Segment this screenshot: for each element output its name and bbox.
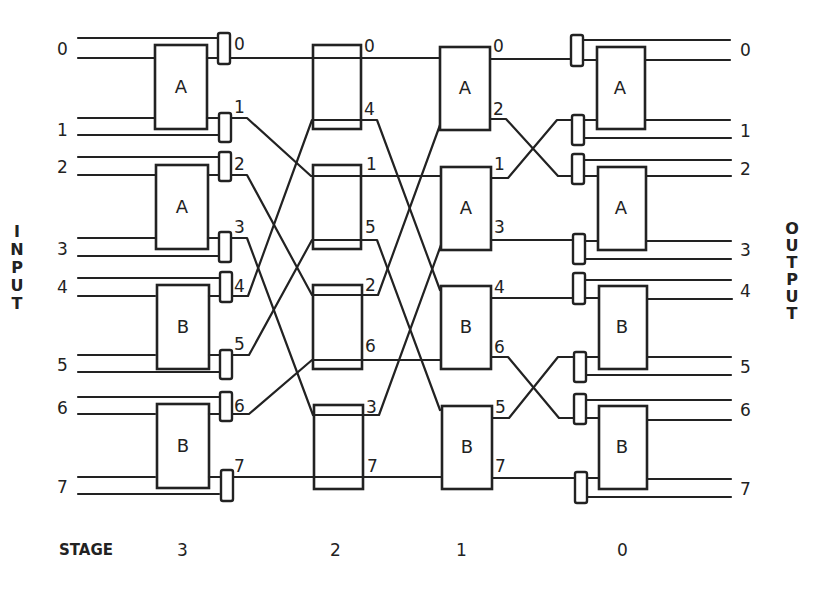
stage1-blocks: A A B B 0 2 1 3 4 6 5 7: [440, 36, 506, 489]
input-letter: I: [14, 222, 20, 241]
output-port-label: 4: [740, 281, 751, 301]
stage3-out-label: 5: [234, 334, 245, 354]
output-port-label: 0: [740, 40, 751, 60]
stage0-block-label: B: [616, 316, 628, 337]
stage3-out-label: 2: [234, 154, 245, 174]
input-port-label: 4: [57, 277, 68, 297]
stage3-out-label: 7: [234, 456, 245, 476]
stage1-out-label: 4: [494, 277, 505, 297]
output-port-label: 5: [740, 357, 751, 377]
stage3-muxes: 0 1 2 3 4 5 6 7: [218, 33, 245, 501]
stage-number: 1: [456, 540, 467, 560]
output-port-label: 1: [740, 121, 751, 141]
input-port-label: 7: [57, 477, 68, 497]
input-port-label: 2: [57, 157, 68, 177]
stage3-block-label: A: [176, 196, 189, 217]
stage1-out-label: 0: [493, 36, 504, 56]
output-letter: T: [787, 304, 798, 323]
input-letter: P: [11, 258, 23, 277]
stage1-block-label: A: [460, 197, 473, 218]
stage2-out-label: 4: [364, 99, 375, 119]
stage2-out-label: 2: [365, 275, 376, 295]
stage1-out-label: 2: [493, 99, 504, 119]
stage0-blocks: A A B B: [597, 47, 647, 489]
stage2-blocks: 0 4 1 5 2 6 3 7: [313, 36, 378, 489]
stage3-block-label: A: [175, 76, 188, 97]
stage3-out-label: 3: [234, 217, 245, 237]
stage2-to-stage1-wires: [361, 58, 441, 477]
output-port-label: 2: [740, 159, 751, 179]
stage1-block-label: A: [459, 77, 472, 98]
input-letter: T: [12, 294, 23, 313]
stage1-block-label: B: [461, 436, 473, 457]
stage0-block-label: A: [615, 197, 628, 218]
stage-number: 3: [177, 540, 188, 560]
input-port-label: 6: [57, 398, 68, 418]
stage3-out-label: 1: [234, 97, 245, 117]
butterfly-network-diagram: A A B B 0 1 2 3 4 5 6 7: [0, 0, 838, 591]
stage1-out-label: 3: [494, 217, 505, 237]
stage-row: STAGE 3 2 1 0: [59, 540, 628, 560]
input-letter: N: [10, 240, 23, 259]
input-port-label: 0: [57, 39, 68, 59]
stage2-out-label: 6: [365, 336, 376, 356]
input-port-label: 5: [57, 355, 68, 375]
stage2-block-3: [313, 285, 362, 369]
stage2-out-label: 7: [367, 456, 378, 476]
stage2-out-label: 5: [365, 217, 376, 237]
stage-number: 0: [617, 540, 628, 560]
input-port-label: 3: [57, 239, 68, 259]
stage2-out-label: 0: [364, 36, 375, 56]
stage3-block-label: B: [177, 316, 189, 337]
output-port-label: 6: [740, 400, 751, 420]
stage1-out-label: 6: [494, 337, 505, 357]
stage1-out-label: 5: [495, 397, 506, 417]
output-vertical-label: OUTPUT: [785, 219, 799, 323]
stage0-block-label: B: [616, 436, 628, 457]
stage0-block-label: A: [614, 77, 627, 98]
stage3-block-label: B: [177, 435, 189, 456]
stage1-block-label: B: [460, 316, 472, 337]
input-port-label: 1: [57, 120, 68, 140]
input-vertical-label: INPUT: [10, 222, 23, 313]
stage3-blocks: A A B B: [155, 45, 220, 488]
stage-label: STAGE: [59, 541, 113, 559]
stage3-out-label: 4: [234, 276, 245, 296]
input-port-labels: 0 1 2 3 4 5 6 7: [57, 39, 68, 497]
output-port-labels: 0 1 2 3 4 5 6 7: [740, 40, 751, 499]
stage1-out-label: 7: [495, 456, 506, 476]
output-port-label: 3: [740, 240, 751, 260]
stage-number: 2: [330, 540, 341, 560]
stage3-to-stage2-wires: [230, 58, 313, 477]
stage1-out-label: 1: [494, 154, 505, 174]
stage2-block-2: [313, 165, 361, 249]
stage3-out-label: 0: [234, 34, 245, 54]
input-letter: U: [11, 276, 24, 295]
output-port-label: 7: [740, 479, 751, 499]
stage2-out-label: 1: [366, 154, 377, 174]
stage0-muxes: [571, 35, 599, 503]
